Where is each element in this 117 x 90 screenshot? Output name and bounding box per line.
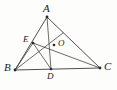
side-AC (47, 17, 100, 68)
segment-BE (15, 43, 33, 70)
vertex-label-E: E (23, 35, 29, 44)
cevian-EC (33, 43, 100, 68)
side-AB (15, 17, 47, 70)
side-BC (15, 68, 100, 70)
vertex-label-O: O (58, 39, 65, 48)
vertex-label-A: A (43, 3, 50, 14)
dot-C (99, 67, 102, 70)
vertex-label-B: B (4, 62, 11, 73)
dot-D (50, 68, 53, 71)
dot-E (32, 42, 35, 45)
dot-O (53, 44, 56, 47)
geometry-figure: A B C D E O (0, 0, 117, 90)
vertex-label-C: C (104, 61, 111, 72)
dot-A (46, 16, 49, 19)
segment-ED (33, 43, 51, 69)
vertex-label-D: D (47, 72, 54, 81)
dot-B (14, 69, 17, 72)
